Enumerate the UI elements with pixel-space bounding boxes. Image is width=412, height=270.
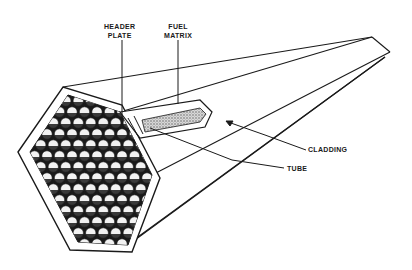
leader-lines [122, 40, 306, 168]
label-cladding: CLADDING [308, 145, 347, 154]
fuel-element-diagram [0, 0, 412, 270]
label-fuel-matrix: FUEL MATRIX [164, 22, 192, 40]
label-header-line1: HEADER [104, 22, 135, 31]
label-header-plate: HEADER PLATE [104, 22, 135, 40]
label-fuel-line1: FUEL [164, 22, 192, 31]
label-fuel-line2: MATRIX [164, 31, 192, 40]
label-tube: TUBE [287, 164, 307, 173]
label-header-line2: PLATE [104, 31, 135, 40]
